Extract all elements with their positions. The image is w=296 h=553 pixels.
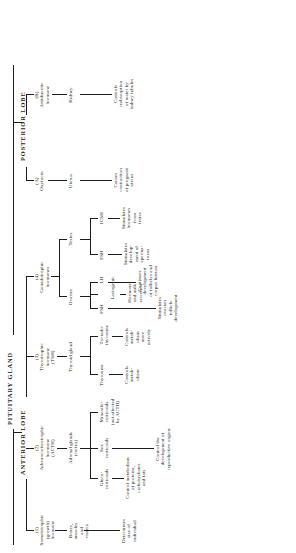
anterior-bus-right [26,277,27,397]
conn-somato-bones [55,530,67,531]
secretion-lactogenic: Lactogenic [110,271,115,305]
effect-kidney-reabsorption: Controls reabsorption of water by kidney… [113,67,135,121]
thyroid-to-triiodo [90,336,98,337]
kidney-to-reabsorption [80,94,112,95]
testes-bar [90,219,91,255]
effect-spermatozoa: Stimulates develop- ment of sperma- tozo… [123,235,150,273]
effect-ovarian-follicle: Stimulates ovarian follicle development [157,287,179,329]
posterior-branch-b [26,94,34,95]
triiodo-to-metab-active [112,336,123,337]
testes-to-fsh [90,254,98,255]
target-kidney: Kidney [68,77,73,113]
lactogenic-to-milk [120,294,126,295]
hormone-oxytocin: (A) Oxytocin [34,161,45,201]
ovaries-to-lactogenic [90,294,98,295]
secretion-tri-iodo-thyronine: Tri-iodo- thyronine [99,315,110,355]
hormone-tsh: (3) Thyrotrophic hormone (TSH) [34,333,56,381]
thyroid-to-thyroxine [90,374,98,375]
ovaries-bar [90,283,91,309]
ovaries-to-lh [90,282,98,283]
anterior-branch-4 [26,276,34,277]
secretion-fsh-ovarian: FSH [99,297,104,321]
effect-uterus-contraction: Causes contraction of pregnant uterus [113,155,135,205]
ovaries-to-fsh [90,308,98,309]
target-thyroid: Thyroid gland [68,333,73,381]
anterior-bus-left [26,479,27,531]
thyroid-bar [90,337,91,375]
anterior-branch-1 [26,530,34,531]
testes-stem [80,239,90,240]
effect-reproductive-organs: Control the development of reproductive … [155,413,171,485]
adrenal-bar [90,413,91,479]
title-spine-left [13,429,14,545]
effect-milk-secretion: Hormone and milk secretion [127,273,143,313]
conn-acth-adrenal [57,448,67,449]
title-spine-right [13,65,14,335]
effect-controls-metabolism: Controls metab- olism [124,355,140,395]
secretion-lh: LH [99,269,104,291]
sex-to-repro [112,448,154,449]
effect-control-metabolism: Control metabolism of proteins, carbohyd… [125,447,147,509]
conn-gonad-bar [59,239,60,297]
gluco-to-metabolism [112,478,124,479]
icsh-to-testes-hormones [108,218,120,219]
uterus-to-contraction [80,180,112,181]
adrenal-stem [80,448,90,449]
hormone-acth: (2) Adrenocorticotrophic hormone (ACTH) [34,413,56,483]
bones-to-size [84,530,120,531]
target-bones: Bones, muscles and viscera [68,511,90,551]
lobe-label-posterior: POSTERIOR LOBE [19,91,26,161]
adrenal-to-mineralo [90,412,98,413]
thyroid-stem [80,356,90,357]
conn-oxytocin-uterus [48,180,67,181]
posterior-bus-right [26,95,27,115]
secretion-mineralo-corticoids: Mineralo- corticoids (not affected by AC… [99,389,121,435]
adrenal-to-sex [90,448,98,449]
pituitary-gland-diagram: PITUITARY GLAND ANTERIOR LOBE POSTERIOR … [0,0,296,553]
thyroxine-to-metab [109,374,123,375]
conn-adh-kidney [52,94,67,95]
effect-controls-metabolism-active: Controls metab- olism more actively [124,317,151,357]
lobe-label-anterior: ANTERIOR LOBE [19,410,26,476]
testes-to-icsh [90,218,98,219]
target-ovaries: Ovaries [68,279,73,315]
anterior-branch-3 [26,356,34,357]
conn-gonad-split [51,276,59,277]
target-testes: Testes [68,221,73,257]
conn-tsh-thyroid [57,356,67,357]
target-adrenal: Adrenal glands (cortex) [68,419,79,477]
secretion-fsh-testes: FSH [99,243,104,267]
hormone-gonadotrophic: (4) Gonadotrophic hormones [34,249,50,305]
posterior-bus-left [26,167,27,181]
effect-determines-size: Determines size of individual [121,509,137,553]
anterior-branch-2 [26,448,34,449]
conn-gonad-testes [59,239,67,240]
adrenal-to-gluco [90,478,98,479]
posterior-branch-a [26,180,34,181]
fsh-te-to-sperm [108,254,122,255]
ovaries-stem [80,296,90,297]
conn-gonad-ovaries [59,296,67,297]
page-title: PITUITARY GLAND [6,352,13,425]
secretion-thyroxine: Thyroxine [99,355,104,395]
secretion-icsh: ICSH [99,205,104,231]
hormone-adh: (B) Antidiuretic hormone [34,71,50,119]
hormone-somatotrophic: (1) Somatotrophic (growth) hormone [34,507,56,553]
target-uterus: Uterus [68,163,73,199]
